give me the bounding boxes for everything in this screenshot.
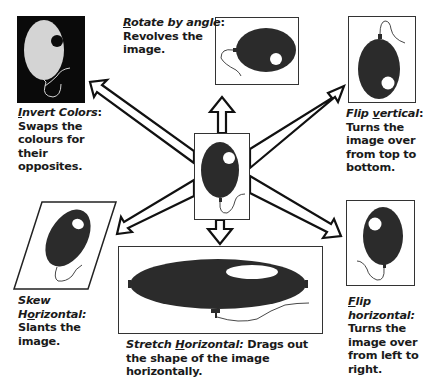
caption-flip-horizontal: Flip horizontal: Turns the image over fr… [348, 295, 419, 377]
caption-rotate-by-angle: Rotate by angle: Revolves the image. [123, 16, 225, 57]
arrow-up-right-icon [250, 86, 344, 168]
arrow-down-icon [208, 220, 232, 244]
balloon-stretched-icon [119, 247, 322, 333]
caption-skew-horizontal: Skew Horizontal: Slants the image. [18, 294, 86, 348]
caption-flip-vertical: Flip vertical: Turns the image over from… [346, 107, 423, 175]
balloon-flipped-horizontal-icon [347, 201, 414, 285]
caption-stretch-horizontal: Stretch Horizontal: Drags out the shape … [126, 338, 308, 379]
flip-horizontal-image [346, 200, 415, 286]
arrow-down-right-icon [250, 176, 341, 238]
flip-vertical-image [348, 16, 416, 103]
arrow-down-left-icon [117, 180, 194, 234]
balloon-rotated-icon [216, 18, 298, 84]
stretch-image [118, 246, 323, 334]
arrow-up-icon [210, 97, 234, 133]
arrow-up-left-icon [90, 80, 194, 163]
caption-invert-colors: Invert Colors: Swaps the colours for the… [18, 106, 102, 174]
invert-colors-image [17, 16, 85, 103]
balloon-flipped-vertical-icon [349, 17, 415, 102]
original-image [194, 133, 250, 220]
balloon-icon [195, 134, 249, 219]
balloon-icon [17, 16, 85, 103]
rotate-image [215, 17, 299, 85]
